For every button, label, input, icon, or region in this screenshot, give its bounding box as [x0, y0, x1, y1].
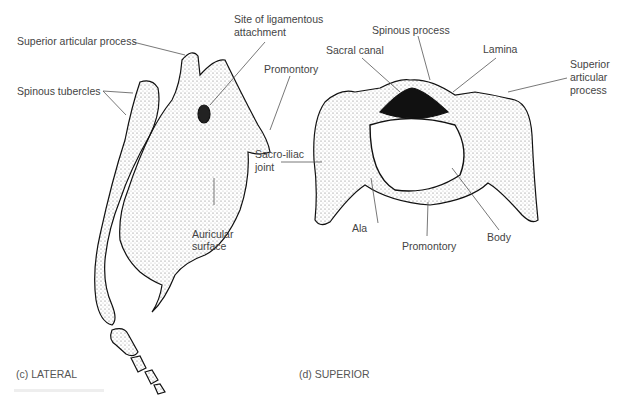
label-site-ligamentous-1: Site of ligamentous	[234, 13, 323, 25]
label-spinous-tubercles: Spinous tubercles	[17, 85, 100, 97]
label-auricular-2: surface	[192, 240, 226, 252]
caption-superior: (d) SUPERIOR	[299, 368, 370, 380]
faint-caption-line	[14, 389, 104, 392]
label-sacroiliac-2: joint	[255, 161, 274, 173]
label-promontory-superior: Promontory	[402, 240, 456, 252]
label-body: Body	[487, 231, 511, 243]
sacrum-lateral-drawing	[95, 53, 270, 394]
caption-lateral: (c) LATERAL	[16, 368, 77, 380]
sacrum-superior-drawing	[314, 80, 538, 225]
label-ala: Ala	[352, 222, 367, 234]
label-superior-1: Superior	[570, 58, 610, 70]
label-superior-3: process	[570, 84, 607, 96]
label-sacral-canal: Sacral canal	[326, 44, 384, 56]
illustration	[0, 0, 619, 395]
label-promontory-lateral: Promontory	[264, 63, 318, 75]
label-site-ligamentous-2: attachment	[234, 26, 286, 38]
label-sacroiliac-1: Sacro-iliac	[255, 148, 304, 160]
label-spinous-process: Spinous process	[372, 24, 450, 36]
label-superior-2: articular	[570, 71, 607, 83]
label-superior-articular-process: Superior articular process	[17, 35, 137, 47]
label-lamina: Lamina	[483, 43, 517, 55]
label-auricular-1: Auricular	[192, 228, 233, 240]
